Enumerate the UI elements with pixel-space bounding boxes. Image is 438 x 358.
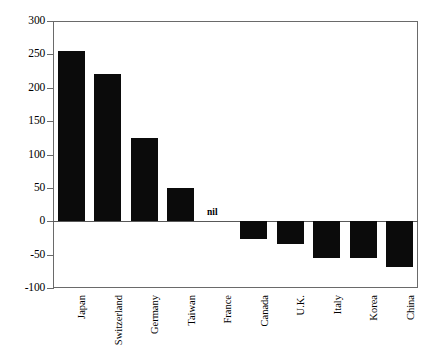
x-axis-category-label: Korea [368,295,379,321]
x-axis-category-label: Canada [259,295,270,327]
x-axis-category-label: Italy [332,295,343,314]
x-axis-category-label: Japan [76,295,87,319]
x-axis-category-label: China [405,295,416,320]
x-axis-labels: JapanSwitzerlandGermanyTaiwanFranceCanad… [0,0,438,358]
x-axis-category-label: U.K. [295,295,306,315]
x-axis-category-label: France [222,295,233,324]
x-axis-category-label: Switzerland [113,295,124,345]
bar-chart: 300250200150100500-50-100 nil JapanSwitz… [0,0,438,358]
x-axis-category-label: Taiwan [186,295,197,326]
x-axis-category-label: Germany [149,295,160,334]
